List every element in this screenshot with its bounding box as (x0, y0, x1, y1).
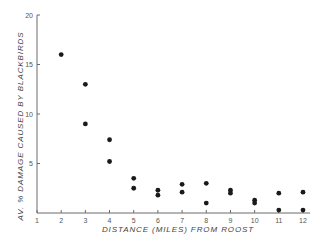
data-point (131, 176, 136, 181)
x-tick-label: 6 (156, 217, 160, 224)
data-point (180, 182, 185, 187)
data-point (156, 193, 161, 198)
data-point (131, 186, 136, 191)
data-point (83, 82, 88, 87)
y-axis-label: AV. % DAMAGE CAUSED BY BLACKBIRDS (16, 31, 25, 221)
x-tick-label: 7 (180, 217, 184, 224)
x-tick-label: 5 (132, 217, 136, 224)
axes (37, 15, 310, 213)
y-tick-label: 5 (29, 160, 33, 167)
data-point (276, 191, 281, 196)
data-point (301, 208, 306, 213)
data-point (252, 201, 257, 206)
x-tick-label: 12 (299, 217, 307, 224)
data-point (301, 190, 306, 195)
x-axis-ticks: 123456789101112 (35, 210, 307, 224)
scatter-chart: 5101520 123456789101112 AV. % DAMAGE CAU… (0, 0, 329, 248)
y-tick-label: 15 (25, 61, 33, 68)
x-axis-label: DISTANCE (MILES) FROM ROOST (102, 225, 254, 234)
data-point (107, 159, 112, 164)
y-tick-label: 20 (25, 12, 33, 19)
data-point (107, 137, 112, 142)
data-point (204, 201, 209, 206)
x-tick-label: 4 (108, 217, 112, 224)
x-tick-label: 8 (204, 217, 208, 224)
x-tick-label: 2 (59, 217, 63, 224)
data-point (83, 122, 88, 127)
x-tick-label: 1 (35, 217, 39, 224)
data-point (59, 52, 64, 57)
data-point (204, 181, 209, 186)
data-point (276, 208, 281, 213)
data-point (228, 191, 233, 196)
y-tick-label: 10 (25, 111, 33, 118)
x-tick-label: 3 (83, 217, 87, 224)
data-point (156, 188, 161, 193)
y-axis-ticks: 5101520 (25, 12, 40, 168)
data-point (180, 190, 185, 195)
x-tick-label: 11 (275, 217, 282, 224)
data-points (59, 52, 306, 212)
x-tick-label: 9 (229, 217, 233, 224)
x-tick-label: 10 (251, 217, 259, 224)
